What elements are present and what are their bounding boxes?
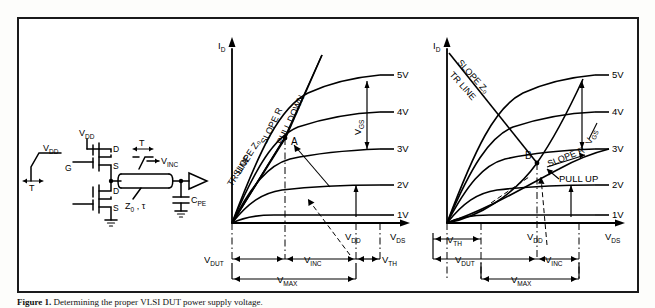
- pd-y-axis-label: ID: [218, 40, 226, 53]
- pd-leader-a: [294, 145, 330, 187]
- pd-curve-label-4v: 4V: [397, 106, 409, 117]
- figure-caption-label: Figure 1.: [17, 297, 51, 307]
- pd-y-axis-arrow: [229, 37, 236, 47]
- pu-vmax-label: VMAX: [511, 274, 532, 287]
- pd-vdut-label: VDUT: [204, 254, 224, 267]
- circuit-pmos-source-label: S: [113, 161, 119, 171]
- pu-operating-point-label: B: [525, 150, 532, 161]
- pu-y-axis-label: ID: [433, 40, 441, 53]
- pd-vgs-label: VGS: [353, 119, 365, 135]
- pd-curve-label-2v: 2V: [397, 179, 409, 190]
- pu-pull-up-label: PULL UP: [559, 173, 598, 184]
- pd-vinc-label: VINC: [304, 254, 322, 267]
- pu-x-axis-label: VDS: [605, 231, 621, 244]
- pd-curve-label-1v: 1V: [397, 209, 409, 220]
- pu-x-axis-arrow: [615, 220, 625, 227]
- pd-operating-point-label: A: [291, 136, 298, 147]
- pu-vth-label: VTH: [447, 234, 462, 247]
- pu-vdut-label: VDUT: [455, 254, 475, 267]
- pu-leader-dashed-a: [541, 177, 547, 245]
- pd-curve-label-5v: 5V: [397, 69, 409, 80]
- pu-y-axis-arrow: [444, 37, 451, 47]
- pd-curve-label-3v: 3V: [397, 143, 409, 154]
- output-node-dot: [109, 179, 113, 183]
- pu-curve-label-1v: 1V: [612, 209, 624, 220]
- pd-vgs-bracket: [354, 81, 370, 217]
- pu-curve-label-2v: 2V: [612, 179, 624, 190]
- circuit-edge-time-label: T: [139, 138, 145, 148]
- pu-curve-label-4v: 4V: [612, 106, 624, 117]
- pd-x-axis-label: VDS: [390, 231, 406, 244]
- pd-curve-1v: [232, 215, 380, 223]
- circuit-vinc-label: VINC: [161, 156, 179, 168]
- pu-vgs-label: VGS: [583, 127, 599, 146]
- pd-vth-label: VTH: [382, 254, 397, 267]
- circuit-nmos-drain-label: D: [113, 186, 119, 196]
- circuit-nmos-source-label: S: [113, 203, 119, 213]
- pd-leader-dashed: [308, 199, 350, 255]
- figure-caption-text: Determining the proper VLSI DUT power su…: [54, 297, 263, 307]
- circuit-input-risetime-label: T: [29, 183, 35, 193]
- chart-pull-up: ID VDS SLOPE Z₀ TR LINE SLOPE R PULL UP …: [419, 27, 644, 289]
- load-node-dot: [179, 179, 183, 183]
- figure-frame: VDD T VDD G D S D S Z0 , τ VINC T CPE: [17, 17, 639, 293]
- pu-vdd-label: VDD: [527, 231, 543, 244]
- circuit-input-vdd-label: VDD: [43, 143, 59, 155]
- figure-caption: Figure 1. Determining the proper VLSI DU…: [17, 297, 637, 307]
- pu-curve-label-5v: 5V: [612, 69, 624, 80]
- circuit-vdd-supply-label: VDD: [79, 128, 95, 140]
- circuit-diagram: VDD T VDD G D S D S Z0 , τ VINC T CPE: [21, 119, 211, 234]
- circuit-pmos-drain-label: D: [113, 144, 119, 154]
- circuit-line-params-label: Z0 , τ: [125, 201, 146, 213]
- pu-curve-label-3v: 3V: [612, 143, 624, 154]
- circuit-pmos-gate-label: G: [65, 163, 72, 173]
- pd-vdd-label: VDD: [345, 231, 361, 244]
- chart-pull-down: ID VDS SLOPE Z₀ TR LINE SLOPE R PULL DOW…: [204, 27, 424, 289]
- figure-root: VDD T VDD G D S D S Z0 , τ VINC T CPE: [0, 0, 655, 308]
- pd-x-axis-arrow: [400, 220, 410, 227]
- pu-vinc-label: VINC: [545, 254, 563, 267]
- pd-vmax-label: VMAX: [277, 274, 298, 287]
